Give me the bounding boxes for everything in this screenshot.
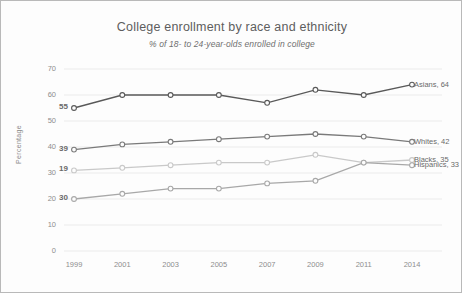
y-tick-label: 40 (32, 142, 56, 151)
data-point (120, 165, 125, 170)
x-tick-label: 2009 (295, 260, 335, 269)
data-point (168, 93, 173, 98)
data-point (265, 181, 270, 186)
data-point (265, 100, 270, 105)
data-point (72, 168, 77, 173)
y-tick-label: 60 (32, 90, 56, 99)
data-point (168, 163, 173, 168)
y-tick-label: 70 (32, 64, 56, 73)
data-point (120, 93, 125, 98)
series-start-label: 55 (59, 102, 68, 111)
y-tick-label: 0 (32, 246, 56, 255)
data-point (265, 160, 270, 165)
series-start-label: 39 (59, 144, 68, 153)
y-tick-label: 30 (32, 168, 56, 177)
data-point (361, 160, 366, 165)
y-tick-label: 10 (32, 220, 56, 229)
data-point (313, 178, 318, 183)
data-point (120, 191, 125, 196)
x-tick-label: 2001 (102, 260, 142, 269)
data-point (216, 137, 221, 142)
series-end-label: Hispanics, 33 (414, 160, 459, 169)
x-tick-label: 2011 (344, 260, 384, 269)
series-end-label: Asians, 64 (414, 80, 449, 89)
data-point (216, 186, 221, 191)
data-point (361, 93, 366, 98)
series-start-label: 30 (59, 193, 68, 202)
data-point (72, 147, 77, 152)
data-point (313, 132, 318, 137)
chart-figure: College enrollment by race and ethnicity… (0, 0, 462, 293)
data-point (313, 152, 318, 157)
data-point (361, 134, 366, 139)
data-point (216, 160, 221, 165)
x-tick-label: 2014 (392, 260, 432, 269)
data-point (216, 93, 221, 98)
data-point (72, 197, 77, 202)
data-point (120, 142, 125, 147)
series-start-label: 19 (59, 164, 68, 173)
series-end-label: Whites, 42 (414, 137, 449, 146)
data-point (168, 139, 173, 144)
x-tick-label: 2005 (199, 260, 239, 269)
y-tick-label: 20 (32, 194, 56, 203)
x-tick-label: 1999 (54, 260, 94, 269)
x-tick-label: 2007 (247, 260, 287, 269)
y-tick-label: 50 (32, 116, 56, 125)
x-tick-label: 2003 (151, 260, 191, 269)
data-point (265, 134, 270, 139)
data-point (72, 106, 77, 111)
data-point (313, 87, 318, 92)
data-point (168, 186, 173, 191)
plot-area (1, 1, 462, 293)
